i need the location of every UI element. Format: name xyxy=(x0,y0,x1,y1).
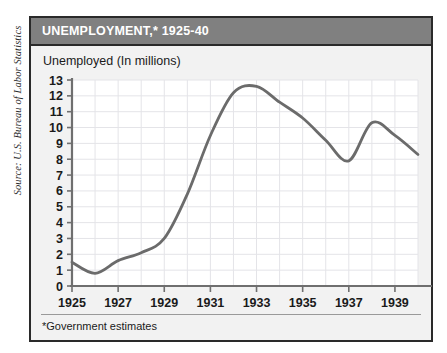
y-tick-label: 10 xyxy=(49,121,63,135)
y-tick-label: 4 xyxy=(56,216,63,230)
footnote-divider xyxy=(41,314,421,315)
y-tick-label: 2 xyxy=(56,248,63,262)
y-tick-label: 6 xyxy=(56,184,63,198)
y-tick-label: 1 xyxy=(56,264,63,278)
plot-area: 0123456789101112131925192719291931193319… xyxy=(31,74,435,324)
x-tick-label: 1927 xyxy=(104,296,132,310)
x-tick-label: 1937 xyxy=(335,296,363,310)
x-tick-label: 1939 xyxy=(381,296,409,310)
y-tick-label: 5 xyxy=(56,200,63,214)
chart-title: UNEMPLOYMENT,* 1925-40 xyxy=(31,24,209,38)
unemployment-chart-figure: Source: U.S. Bureau of Labor Statistics … xyxy=(0,0,447,353)
y-tick-label: 7 xyxy=(56,169,63,183)
chart-title-bar: UNEMPLOYMENT,* 1925-40 xyxy=(31,18,431,46)
x-tick-label: 1929 xyxy=(150,296,178,310)
line-chart-svg: 0123456789101112131925192719291931193319… xyxy=(31,74,435,324)
x-tick-label: 1935 xyxy=(289,296,317,310)
y-tick-label: 8 xyxy=(56,153,63,167)
y-tick-label: 3 xyxy=(56,232,63,246)
y-tick-label: 9 xyxy=(56,137,63,151)
y-tick-label: 12 xyxy=(49,89,63,103)
plot-background xyxy=(72,80,418,286)
y-tick-label: 13 xyxy=(49,74,63,88)
source-credit: Source: U.S. Bureau of Labor Statistics xyxy=(12,11,23,211)
chart-panel: UNEMPLOYMENT,* 1925-40 Unemployed (In mi… xyxy=(29,16,433,342)
x-tick-label: 1931 xyxy=(196,296,224,310)
chart-footnote: *Government estimates xyxy=(42,320,157,332)
x-tick-label: 1925 xyxy=(58,296,86,310)
x-tick-label: 1933 xyxy=(243,296,271,310)
chart-subtitle: Unemployed (In millions) xyxy=(43,54,181,68)
y-tick-label: 0 xyxy=(56,280,63,294)
y-tick-label: 11 xyxy=(50,105,63,119)
